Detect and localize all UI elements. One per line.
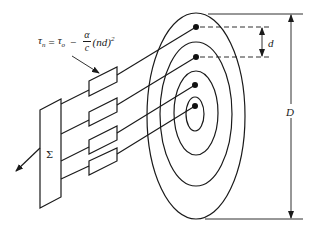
formula-pointer-arrow: [72, 56, 99, 73]
tap-3-feed-line: [117, 85, 195, 133]
D-label: D: [285, 106, 294, 118]
tap-3-input-line: [61, 147, 89, 161]
ring-outer: [147, 13, 245, 219]
tap-2-feed-line: [117, 57, 196, 105]
concentric-rings: [147, 13, 245, 219]
tap-4: [61, 103, 198, 179]
tap-4-input-line: [61, 166, 89, 179]
tap-1-dot: [193, 24, 199, 30]
tap-1-input-line: [61, 90, 89, 104]
output-arrow: [16, 148, 40, 171]
ring-inner: [186, 97, 204, 131]
dimension-d: d: [200, 27, 274, 57]
delay-block-1: [89, 67, 117, 96]
antenna-array-diagram: Σ d D: [0, 0, 318, 229]
tap-4-dot: [192, 103, 198, 109]
ring-2: [160, 42, 232, 186]
tap-1-feed-line: [117, 27, 196, 75]
tap-2-input-line: [61, 120, 89, 134]
tap-3-dot: [192, 82, 198, 88]
summer-sigma-label: Σ: [46, 149, 53, 160]
d-label: d: [268, 37, 274, 49]
dimension-D: D: [205, 14, 303, 219]
tap-2-dot: [193, 54, 199, 60]
delay-block-2: [89, 98, 117, 126]
tap-1: [61, 24, 199, 104]
